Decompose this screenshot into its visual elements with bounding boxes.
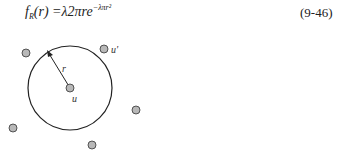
node — [22, 49, 30, 57]
center-label: u — [72, 93, 77, 104]
node-u — [66, 84, 74, 92]
node — [88, 141, 96, 149]
diagram: r u u' — [0, 0, 347, 158]
radius-label: r — [62, 63, 66, 74]
node — [9, 124, 17, 132]
neighbor-label: u' — [111, 44, 119, 55]
node — [132, 106, 140, 114]
radius-line — [48, 52, 70, 88]
node-u-prime — [100, 45, 108, 53]
